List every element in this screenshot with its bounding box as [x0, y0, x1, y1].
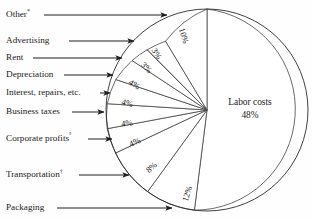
callout-depreciation-text: Depreciation — [6, 69, 54, 79]
slice-label-business-taxes: 4% — [121, 117, 134, 128]
callout-rent[interactable]: Rent — [6, 52, 24, 62]
callout-packaging[interactable]: Packaging — [6, 202, 45, 212]
callout-other-sup: * — [27, 7, 30, 14]
callout-advertising[interactable]: Advertising — [6, 35, 50, 45]
callout-depreciation[interactable]: Depreciation — [6, 69, 54, 79]
callout-labels: Other* Advertising Rent Depreciation Int… — [6, 7, 81, 212]
callout-transportation-sup: † — [60, 167, 63, 174]
callout-transportation[interactable]: Transportation† — [6, 167, 63, 179]
callout-rent-text: Rent — [6, 52, 24, 62]
callout-transportation-text: Transportation — [6, 169, 60, 179]
callout-interest-repairs[interactable]: Interest, repairs, etc. — [6, 87, 81, 97]
pie-wedges — [106, 9, 308, 211]
pie-chart-figure: 10% 3% 3% 4% 4% 4% 4% 8% 12% Labor costs… — [0, 0, 312, 219]
callout-corporate-profits[interactable]: Corporate profits° — [6, 131, 72, 143]
callout-packaging-text: Packaging — [6, 202, 45, 212]
callout-other-text: Other — [6, 9, 27, 19]
callout-business-taxes[interactable]: Business taxes — [6, 106, 60, 116]
labor-costs-name: Labor costs — [228, 97, 272, 107]
callout-interest-repairs-text: Interest, repairs, etc. — [6, 87, 81, 97]
labor-costs-value: 48% — [241, 110, 258, 120]
callout-other[interactable]: Other* — [6, 7, 30, 19]
callout-corporate-profits-text: Corporate profits — [6, 133, 69, 143]
callout-advertising-text: Advertising — [6, 35, 50, 45]
callout-corporate-profits-sup: ° — [69, 131, 72, 138]
pie-chart-canvas: 10% 3% 3% 4% 4% 4% 4% 8% 12% Labor costs… — [0, 0, 312, 219]
callout-business-taxes-text: Business taxes — [6, 106, 60, 116]
